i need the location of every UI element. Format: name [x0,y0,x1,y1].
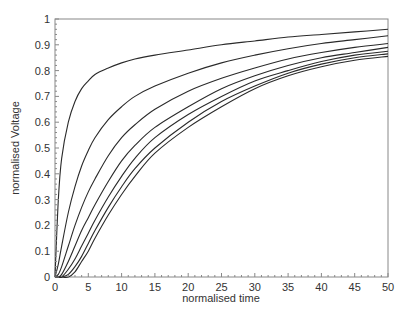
y-tick-label: 0.8 [35,65,50,77]
series-line-7 [55,56,388,277]
y-tick-label: 0.5 [35,142,50,154]
y-tick-label: 1 [44,13,50,25]
y-tick-label: 0.4 [35,168,50,180]
y-tick-label: 0.9 [35,39,50,51]
series-layer [55,29,388,277]
line-chart: 05101520253035404550 00.10.20.30.40.50.6… [0,0,410,316]
series-line-4 [55,47,388,277]
y-tick-label: 0.3 [35,194,50,206]
x-tick-label: 45 [349,281,361,293]
x-tick-label: 5 [85,281,91,293]
x-tick-label: 0 [52,281,58,293]
y-tick-label: 0 [44,271,50,283]
y-tick-label: 0.1 [35,245,50,257]
x-axis-label: normalised time [182,292,260,304]
y-tick-label: 0.2 [35,219,50,231]
series-line-6 [55,54,388,277]
y-axis-label: normalised Voltage [9,101,21,195]
y-tick-label: 0.6 [35,116,50,128]
x-tick-label: 10 [115,281,127,293]
series-line-1 [55,29,388,277]
y-tick-label: 0.7 [35,90,50,102]
x-tick-label: 35 [282,281,294,293]
x-tick-label: 40 [315,281,327,293]
series-line-5 [55,51,388,277]
x-tick-label: 50 [382,281,394,293]
series-line-3 [55,44,388,277]
x-axis: 05101520253035404550 [52,273,394,293]
x-tick-label: 15 [149,281,161,293]
series-line-2 [55,36,388,277]
